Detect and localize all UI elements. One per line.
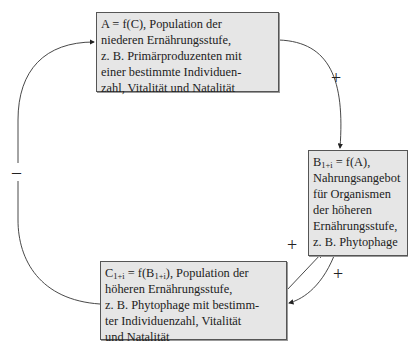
node-a-lower-trophic-population: A = f(C), Population der niederen Ernähr… [96, 12, 279, 92]
sign-c-to-a: – [12, 163, 21, 181]
node-a-line: einer bestimmte Individuen- [101, 64, 274, 80]
node-a-line: zahl, Vitalität und Natalität [101, 80, 274, 96]
edge-c-to-a [18, 42, 100, 304]
node-c-line: und Natalität [105, 329, 282, 345]
sign-c-to-b: + [287, 236, 297, 254]
node-b-line: der höheren [313, 202, 407, 218]
node-c-line: z. B. Phytophage mit bestimm- [105, 297, 282, 313]
node-a-line: A = f(C), Population der [101, 16, 274, 32]
node-b-formula: B1+i = f(A), [313, 154, 407, 170]
edge-b-to-c [289, 256, 334, 303]
node-b-line: z. B. Phytophage [313, 234, 407, 250]
node-c-line: höheren Ernährungsstufe, [105, 281, 282, 297]
sign-a-to-b: + [331, 69, 341, 87]
node-b-line: für Organismen [313, 186, 407, 202]
node-c-line: ter Individuenzahl, Vitalität [105, 313, 282, 329]
node-c-formula: C1+i = f(B1+i), Population der [105, 265, 282, 281]
node-b-food-supply: B1+i = f(A), Nahrungsangebot für Organis… [308, 150, 408, 256]
node-a-line: niederen Ernährungsstufe, [101, 32, 274, 48]
node-a-line: z. B. Primärproduzenten mit [101, 48, 274, 64]
node-b-line: Ernährungsstufe, [313, 218, 407, 234]
edge-a-to-b [279, 40, 341, 148]
node-b-line: Nahrungsangebot [313, 170, 407, 186]
sign-b-to-c: + [333, 265, 343, 283]
node-c-higher-trophic-population: C1+i = f(B1+i), Population der höheren E… [100, 261, 287, 340]
